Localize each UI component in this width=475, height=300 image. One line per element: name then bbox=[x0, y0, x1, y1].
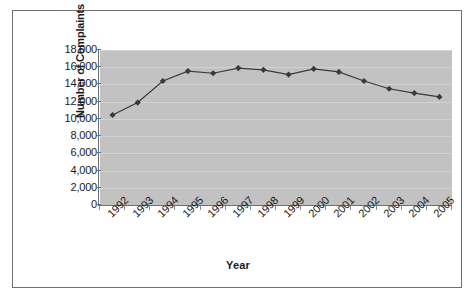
x-axis-tick-mark bbox=[200, 206, 201, 210]
data-point-marker bbox=[411, 90, 417, 96]
y-axis-tick-label: 8,000 bbox=[70, 129, 97, 141]
y-axis-tick-label: 14,000 bbox=[65, 77, 97, 89]
x-axis-tick-labels: 1992199319941995199619971998199920002001… bbox=[99, 211, 451, 257]
y-axis-tick-mark bbox=[97, 49, 101, 50]
data-point-marker bbox=[361, 78, 367, 84]
x-axis-tick-mark bbox=[99, 206, 100, 210]
y-axis-tick-mark bbox=[97, 66, 101, 67]
x-axis-title: Year bbox=[13, 259, 463, 271]
data-point-marker bbox=[386, 86, 392, 92]
y-axis-tick-label: 18,000 bbox=[65, 43, 97, 55]
data-point-marker bbox=[235, 65, 241, 71]
y-axis-tick-mark bbox=[97, 170, 101, 171]
x-axis-tick-mark bbox=[275, 206, 276, 210]
y-axis-tick-labels: 18,00016,00014,00012,00010,0008,0006,000… bbox=[35, 49, 97, 204]
series-line bbox=[113, 68, 440, 115]
y-axis-tick-mark bbox=[97, 152, 101, 153]
y-axis-tick-label: 2,000 bbox=[70, 181, 97, 193]
y-axis-tick-mark bbox=[97, 118, 101, 119]
x-axis-tick-mark bbox=[149, 206, 150, 210]
x-axis-tick-mark bbox=[174, 206, 175, 210]
x-axis-tick-mark bbox=[300, 206, 301, 210]
data-point-marker bbox=[185, 68, 191, 74]
data-point-marker bbox=[285, 71, 291, 77]
data-point-marker bbox=[210, 70, 216, 76]
x-axis-tick-mark bbox=[350, 206, 351, 210]
y-axis-tick-mark bbox=[97, 83, 101, 84]
line-series-svg bbox=[100, 50, 452, 205]
cropped-header-text bbox=[0, 0, 475, 6]
x-axis-tick-mark bbox=[376, 206, 377, 210]
x-axis-tick-mark bbox=[124, 206, 125, 210]
x-axis-tick-mark bbox=[225, 206, 226, 210]
y-axis-tick-label: 12,000 bbox=[65, 95, 97, 107]
y-axis-tick-label: 16,000 bbox=[65, 60, 97, 72]
data-point-marker bbox=[260, 67, 266, 73]
data-point-marker bbox=[109, 112, 115, 118]
y-axis-tick-label: 6,000 bbox=[70, 146, 97, 158]
y-axis-tick-mark bbox=[97, 204, 101, 205]
x-axis-tick-mark bbox=[426, 206, 427, 210]
chart-figure-frame: Number of Complaints 18,00016,00014,0001… bbox=[12, 10, 462, 288]
y-axis-tick-label: 10,000 bbox=[65, 112, 97, 124]
x-axis-tick-mark bbox=[451, 206, 452, 210]
x-axis-tick-mark bbox=[325, 206, 326, 210]
data-point-marker bbox=[336, 69, 342, 75]
data-point-marker bbox=[311, 66, 317, 72]
data-point-marker bbox=[436, 94, 442, 100]
x-axis-tick-mark bbox=[250, 206, 251, 210]
y-axis-tick-mark bbox=[97, 101, 101, 102]
y-axis-tick-label: 4,000 bbox=[70, 164, 97, 176]
y-axis-tick-mark bbox=[97, 135, 101, 136]
y-axis-tick-mark bbox=[97, 187, 101, 188]
x-axis-tick-mark bbox=[401, 206, 402, 210]
plot-area bbox=[99, 49, 453, 206]
